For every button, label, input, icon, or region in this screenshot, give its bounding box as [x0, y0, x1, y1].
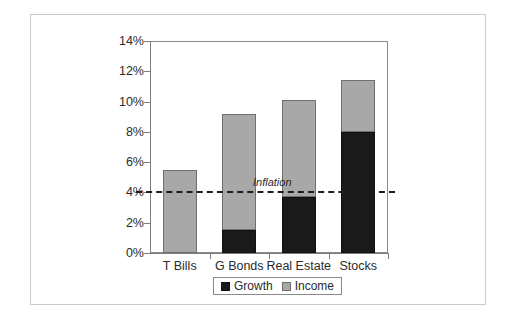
x-axis-tick-mark — [388, 253, 389, 259]
y-axis-tick-mark — [144, 223, 150, 224]
y-axis-tick-labels: 0%2%4%6%8%10%12%14% — [96, 0, 144, 322]
y-axis-tick-label: 14% — [119, 35, 144, 48]
x-axis-tick-label: T Bills — [163, 260, 197, 273]
y-axis-tick-label: 2% — [126, 216, 144, 229]
y-axis-line — [150, 41, 151, 254]
bar-segment-income — [341, 80, 375, 131]
bar-group — [163, 41, 197, 253]
y-axis-tick-mark — [144, 71, 150, 72]
y-axis-tick-label: 12% — [119, 65, 144, 78]
y-axis-tick-label: 0% — [126, 247, 144, 260]
x-axis-tick-mark — [210, 253, 211, 259]
chart-legend: Growth Income — [213, 277, 342, 295]
legend-entry-income: Income — [282, 280, 334, 292]
y-axis-tick-label: 8% — [126, 126, 144, 139]
bar-segment-growth — [282, 197, 316, 253]
bar-segment-growth — [222, 230, 256, 253]
stacked-bar-chart: 0%2%4%6%8%10%12%14% Inflation T BillsG B… — [0, 0, 513, 322]
bar-group — [222, 41, 256, 253]
y-axis-tick-mark — [144, 162, 150, 163]
inflation-line — [136, 191, 395, 193]
legend-entry-growth: Growth — [221, 280, 273, 292]
legend-label-income: Income — [295, 280, 334, 292]
legend-swatch-growth-icon — [221, 282, 230, 291]
y-axis-tick-mark — [144, 253, 150, 254]
y-axis-tick-mark — [144, 102, 150, 103]
y-axis-tick-label: 10% — [119, 95, 144, 108]
x-axis-tick-label: Stocks — [339, 260, 377, 273]
bar-group — [341, 41, 375, 253]
y-axis-tick-label: 6% — [126, 156, 144, 169]
x-axis-tick-label: Real Estate — [266, 260, 331, 273]
legend-label-growth: Growth — [234, 280, 273, 292]
x-axis-tick-label: G Bonds — [215, 260, 264, 273]
legend-swatch-income-icon — [282, 282, 291, 291]
bar-segment-income — [163, 170, 197, 253]
bar-segment-income — [222, 114, 256, 231]
inflation-label: Inflation — [253, 176, 292, 188]
bar-group — [282, 41, 316, 253]
y-axis-tick-mark — [144, 41, 150, 42]
y-axis-tick-mark — [144, 132, 150, 133]
